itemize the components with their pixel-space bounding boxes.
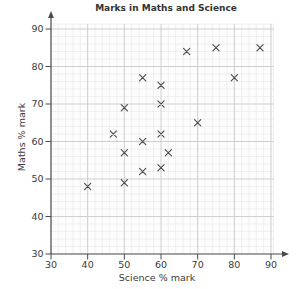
x-tick-label: 70 (192, 259, 204, 270)
y-tick-label: 30 (31, 248, 43, 259)
x-tick-label: 60 (155, 259, 167, 270)
x-tick-label: 30 (45, 259, 57, 270)
y-tick-label: 80 (31, 61, 43, 72)
scatter-chart-figure: Marks in Maths and Science Maths % mark … (0, 0, 304, 289)
y-tick-label: 60 (31, 136, 43, 147)
plot-background (51, 24, 274, 254)
x-tick-label: 80 (228, 259, 240, 270)
plot-canvas: 3040506070809030405060708090 (0, 0, 304, 289)
x-axis-arrow-icon (282, 251, 289, 257)
x-tick-label: 40 (82, 259, 94, 270)
x-tick-label: 50 (118, 259, 130, 270)
y-tick-label: 70 (31, 98, 43, 109)
y-tick-label: 90 (31, 23, 43, 34)
y-tick-label: 50 (31, 173, 43, 184)
x-tick-label: 90 (265, 259, 277, 270)
y-tick-label: 40 (31, 211, 43, 222)
y-axis-arrow-icon (48, 11, 54, 18)
